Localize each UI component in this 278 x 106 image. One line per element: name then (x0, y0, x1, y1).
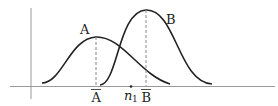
curve-a-label: A (79, 22, 90, 37)
mean-a-label: A (91, 90, 102, 105)
curve-b (100, 10, 212, 85)
point-n1-subscript: 1 (132, 94, 138, 104)
curve-a (42, 37, 170, 84)
mean-b-label: B (142, 90, 152, 105)
curve-b-label: B (166, 12, 176, 27)
distribution-diagram: A B A B n 1 (0, 0, 278, 106)
